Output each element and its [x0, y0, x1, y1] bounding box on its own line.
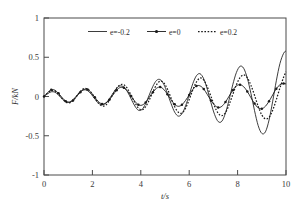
y-tick-label-neg0.5: -0.5	[26, 131, 39, 141]
y-tick-label-0.5: 0.5	[28, 52, 39, 62]
series-marker-point	[144, 101, 147, 104]
x-tick-label-10: 10	[282, 179, 291, 189]
series-marker-point	[166, 93, 169, 96]
chart-figure: 1 0.5 0 -0.5 -1 0 2 4 6 8 10 t/s F/kN e=…	[0, 0, 301, 208]
legend-label-1: e=0	[169, 28, 181, 37]
x-tick-label-4: 4	[139, 179, 144, 189]
x-tick-label-2: 2	[90, 179, 94, 189]
x-axis-title: t/s	[161, 191, 170, 201]
series-marker-point	[253, 102, 256, 105]
series-marker-point	[246, 90, 249, 93]
series-marker-point	[202, 88, 205, 91]
series-marker-point	[159, 86, 162, 89]
series-marker-point	[261, 107, 264, 110]
y-tick-label-1: 1	[35, 13, 39, 23]
series-marker-point	[123, 87, 126, 90]
series-marker-point	[217, 106, 220, 109]
series-marker-point	[282, 82, 285, 85]
series-marker-point	[181, 103, 184, 106]
plot-area	[44, 18, 286, 175]
y-tick-label-neg1: -1	[32, 170, 39, 180]
legend-label-0: e=-0.2	[110, 28, 130, 37]
series-marker-point	[268, 100, 271, 103]
series-marker-point	[137, 103, 140, 106]
series-marker-point	[275, 87, 278, 90]
y-axis-title: F/kN	[10, 87, 20, 106]
series-marker-point	[239, 83, 242, 86]
legend-swatch-marker-dot	[155, 30, 158, 33]
series-marker-point	[188, 94, 191, 97]
x-tick-label-6: 6	[187, 179, 191, 189]
x-tick-label-0: 0	[42, 179, 46, 189]
series-marker-point	[224, 101, 227, 104]
legend-label-2: e=0.2	[220, 28, 237, 37]
series-marker-point	[195, 85, 198, 88]
x-tick-label-8: 8	[235, 179, 239, 189]
y-tick-label-0: 0	[35, 92, 39, 102]
chart-svg: 1 0.5 0 -0.5 -1 0 2 4 6 8 10 t/s F/kN e=…	[0, 0, 301, 208]
